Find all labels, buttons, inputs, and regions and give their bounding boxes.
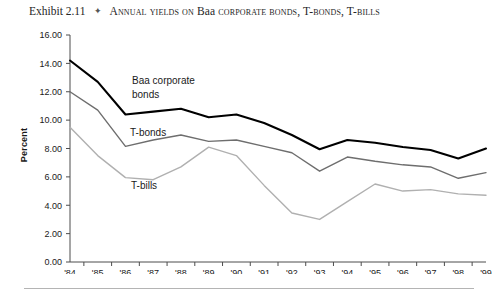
y-tick-label: 8.00 bbox=[44, 144, 62, 154]
y-tick-label: 0.00 bbox=[44, 257, 62, 267]
title-suffix: corporate bonds, T-bonds, T-bills bbox=[215, 5, 380, 17]
diamond-bullet-icon: ✦ bbox=[94, 4, 102, 18]
series-inline-labels: Baa corporatebondsT-bondsT-bills bbox=[130, 75, 195, 191]
series-inline-label: Baa corporate bbox=[132, 75, 195, 86]
y-tick-label: 12.00 bbox=[39, 87, 62, 97]
x-tick-label: '97 bbox=[425, 268, 437, 274]
exhibit-caption: Exhibit 2.11✦Annual yields on Baa corpor… bbox=[29, 4, 489, 20]
x-tick-label: '87 bbox=[147, 268, 159, 274]
exhibit-title: Annual yields on Baa corporate bonds, T-… bbox=[109, 5, 380, 17]
y-tick-label: 16.00 bbox=[39, 30, 62, 40]
y-tick-label: 10.00 bbox=[39, 115, 62, 125]
x-tick-label: '90 bbox=[231, 268, 243, 274]
exhibit-number: Exhibit 2.11 bbox=[29, 5, 85, 17]
title-keyword: Baa bbox=[197, 5, 215, 17]
x-tick-label: '85 bbox=[92, 268, 104, 274]
x-tick-label: '89 bbox=[203, 268, 215, 274]
yields-line-chart: Percent 0.002.004.006.008.0010.0012.0014… bbox=[0, 24, 498, 274]
x-tick-label: '96 bbox=[397, 268, 409, 274]
y-tick-label: 4.00 bbox=[44, 201, 62, 211]
x-tick-label: '98 bbox=[452, 268, 464, 274]
series-inline-label: T-bills bbox=[131, 180, 157, 191]
y-tick-label: 6.00 bbox=[44, 172, 62, 182]
title-prefix: Annual yields on bbox=[109, 5, 196, 17]
y-axis: 0.002.004.006.008.0010.0012.0014.0016.00 bbox=[39, 30, 70, 267]
y-tick-label: 2.00 bbox=[44, 229, 62, 239]
series-line-t-bills bbox=[70, 127, 486, 219]
x-tick-label: '95 bbox=[369, 268, 381, 274]
x-tick-label: '88 bbox=[175, 268, 187, 274]
x-tick-label: '91 bbox=[258, 268, 270, 274]
x-tick-label: '86 bbox=[120, 268, 132, 274]
series-inline-label: bonds bbox=[132, 89, 159, 100]
x-tick-label: '84 bbox=[64, 268, 76, 274]
series-inline-label: T-bonds bbox=[130, 127, 166, 138]
x-tick-label: '92 bbox=[286, 268, 298, 274]
x-axis: '84'85'86'87'88'89'90'91'92'93'94'95'96'… bbox=[64, 262, 492, 274]
y-tick-label: 14.00 bbox=[39, 59, 62, 69]
footer-divider bbox=[24, 288, 474, 289]
chart-canvas: 0.002.004.006.008.0010.0012.0014.0016.00… bbox=[0, 24, 498, 274]
x-tick-label: '93 bbox=[314, 268, 326, 274]
x-tick-label: '94 bbox=[341, 268, 353, 274]
x-tick-label: '99 bbox=[480, 268, 492, 274]
